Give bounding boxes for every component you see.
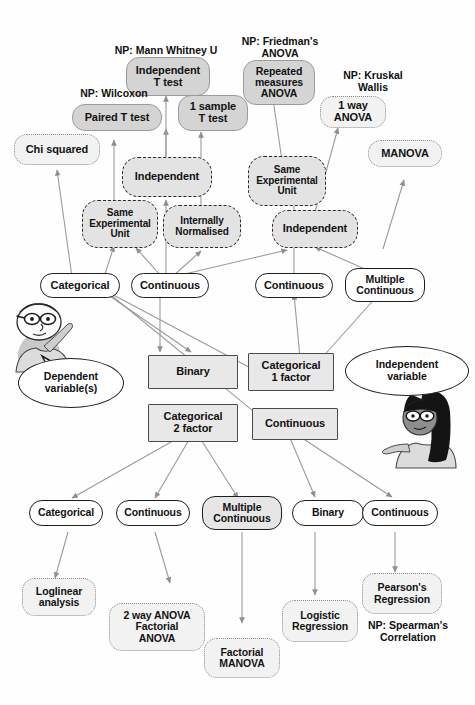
bubble-dependent-variable: Dependent variable(s) — [18, 358, 124, 408]
node-decision-same-experimental-unit-left[interactable]: Same Experimental Unit — [82, 200, 158, 248]
node-decision-same-experimental-unit-right[interactable]: Same Experimental Unit — [248, 156, 326, 206]
node-out-categorical[interactable]: Categorical — [29, 500, 103, 526]
node-dep-continuous-1[interactable]: Continuous — [131, 273, 209, 298]
bubble-independent-variable: Independent variable — [345, 346, 469, 396]
node-one-way-anova[interactable]: 1 way ANOVA — [320, 96, 386, 128]
node-dep-continuous-2[interactable]: Continuous — [255, 273, 333, 298]
node-out-continuous-1[interactable]: Continuous — [116, 500, 190, 526]
node-logistic-regression[interactable]: Logistic Regression — [282, 600, 358, 642]
node-decision-independent-left[interactable]: Independent — [122, 157, 212, 197]
node-paired-t-test[interactable]: Paired T test — [72, 104, 162, 131]
node-chi-squared[interactable]: Chi squared — [14, 134, 100, 165]
node-box-continuous[interactable]: Continuous — [252, 408, 338, 440]
node-loglinear-analysis[interactable]: Loglinear analysis — [22, 578, 96, 616]
node-dep-categorical[interactable]: Categorical — [40, 273, 120, 298]
node-out-binary[interactable]: Binary — [292, 500, 364, 526]
node-box-categorical-2-factor[interactable]: Categorical 2 factor — [148, 404, 238, 442]
node-two-way-anova[interactable]: 2 way ANOVA Factorial ANOVA — [109, 603, 205, 651]
node-out-continuous-2[interactable]: Continuous — [362, 500, 438, 526]
node-repeated-measures-anova[interactable]: Repeated measures ANOVA — [243, 60, 315, 105]
node-factorial-manova[interactable]: Factorial MANOVA — [204, 638, 280, 678]
flowchart-canvas: NP: Wilcoxon NP: Mann Whitney U NP: Frie… — [0, 0, 475, 705]
node-out-multiple-continuous[interactable]: Multiple Continuous — [202, 496, 282, 530]
caption-np-wilcoxon: NP: Wilcoxon — [64, 88, 164, 100]
caption-np-kruskal-wallis: NP: Kruskal Wallis — [325, 70, 421, 93]
node-pearsons-regression[interactable]: Pearson's Regression — [362, 573, 442, 614]
node-decision-internally-normalised[interactable]: Internally Normalised — [163, 205, 241, 248]
caption-np-spearmans-correlation: NP: Spearman's Correlation — [356, 620, 460, 643]
node-manova[interactable]: MANOVA — [368, 140, 442, 167]
node-one-sample-t-test[interactable]: 1 sample T test — [178, 95, 248, 131]
node-box-binary[interactable]: Binary — [148, 355, 238, 389]
node-box-categorical-1-factor[interactable]: Categorical 1 factor — [248, 353, 334, 391]
caption-np-mann-whitney: NP: Mann Whitney U — [98, 45, 234, 57]
caption-np-friedmans-anova: NP: Friedman's ANOVA — [228, 36, 332, 59]
node-decision-independent-right[interactable]: Independent — [272, 210, 358, 248]
node-dep-multiple-continuous[interactable]: Multiple Continuous — [345, 268, 425, 302]
